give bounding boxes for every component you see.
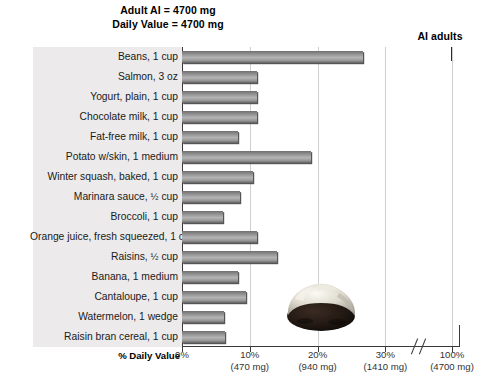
- x-tick-label-30: 30%(1410 mg): [350, 349, 420, 372]
- x-tick-label-10: 10%(470 mg): [215, 349, 285, 372]
- category-label: Marinara sauce, ½ cup: [30, 187, 178, 207]
- x-tick-milligrams: (940 mg): [283, 361, 353, 372]
- category-label: Chocolate milk, 1 cup: [30, 107, 178, 127]
- bar-row: Watermelon, 1 wedge: [0, 307, 481, 327]
- bar: [182, 231, 257, 243]
- x-tick-percent: 30%: [376, 349, 395, 360]
- daily-value-note: Daily Value = 4700 mg: [88, 18, 248, 30]
- category-label: Cantaloupe, 1 cup: [30, 287, 178, 307]
- bar: [182, 331, 225, 343]
- bar-row: Raisins, ½ cup: [0, 247, 481, 267]
- category-label: Fat-free milk, 1 cup: [30, 127, 178, 147]
- bar-row: Cantaloupe, 1 cup: [0, 287, 481, 307]
- x-tick-label-0: 0%: [147, 349, 217, 360]
- bar: [182, 191, 240, 203]
- category-label: Watermelon, 1 wedge: [30, 307, 178, 327]
- bar-row: Broccoli, 1 cup: [0, 207, 481, 227]
- category-label: Winter squash, baked, 1 cup: [30, 167, 178, 187]
- x-tick-milligrams: (4700 mg): [417, 361, 481, 372]
- bar-row: Potato w/skin, 1 medium: [0, 147, 481, 167]
- bar: [182, 111, 257, 123]
- x-tick-percent: 20%: [308, 349, 327, 360]
- bar-row: Winter squash, baked, 1 cup: [0, 167, 481, 187]
- category-label: Broccoli, 1 cup: [30, 207, 178, 227]
- bar: [182, 131, 238, 143]
- category-label: Yogurt, plain, 1 cup: [30, 87, 178, 107]
- bar: [182, 51, 363, 63]
- category-label: Banana, 1 medium: [30, 267, 178, 287]
- category-label: Salmon, 3 oz: [30, 67, 178, 87]
- bar-row: Fat-free milk, 1 cup: [0, 127, 481, 147]
- bar: [182, 151, 311, 163]
- category-label: Raisins, ½ cup: [30, 247, 178, 267]
- bar-row: Yogurt, plain, 1 cup: [0, 87, 481, 107]
- bar: [182, 211, 223, 223]
- bar: [182, 271, 238, 283]
- bar: [182, 91, 257, 103]
- category-label: Beans, 1 cup: [30, 47, 178, 67]
- bar: [182, 311, 224, 323]
- x-tick-percent: 100%: [440, 349, 465, 360]
- bar: [182, 71, 257, 83]
- potassium-bar-chart: Adult AI = 4700 mg Daily Value = 4700 mg…: [0, 0, 481, 382]
- bar-row: Raisin bran cereal, 1 cup: [0, 327, 481, 347]
- baked-potato-photo: [279, 273, 363, 333]
- bar-row: Beans, 1 cup: [0, 47, 481, 67]
- x-tick-label-100: 100%(4700 mg): [417, 349, 481, 372]
- x-tick-milligrams: (470 mg): [215, 361, 285, 372]
- bar-row: Salmon, 3 oz: [0, 67, 481, 87]
- x-tick-percent: 10%: [240, 349, 259, 360]
- bar: [182, 171, 253, 183]
- category-label: Raisin bran cereal, 1 cup: [30, 327, 178, 347]
- bar-row: Marinara sauce, ½ cup: [0, 187, 481, 207]
- category-label: Orange juice, fresh squeezed, 1 cup: [30, 227, 178, 247]
- x-tick-label-20: 20%(940 mg): [283, 349, 353, 372]
- adult-ai-note: Adult AI = 4700 mg: [88, 4, 248, 16]
- bar-row: Orange juice, fresh squeezed, 1 cup: [0, 227, 481, 247]
- bar: [182, 291, 246, 303]
- ai-adults-label: AI adults: [404, 30, 476, 42]
- x-tick-milligrams: (1410 mg): [350, 361, 420, 372]
- bar-row: Banana, 1 medium: [0, 267, 481, 287]
- category-label: Potato w/skin, 1 medium: [30, 147, 178, 167]
- bar-row: Chocolate milk, 1 cup: [0, 107, 481, 127]
- bar: [182, 251, 277, 263]
- x-tick-percent: 0%: [175, 349, 189, 360]
